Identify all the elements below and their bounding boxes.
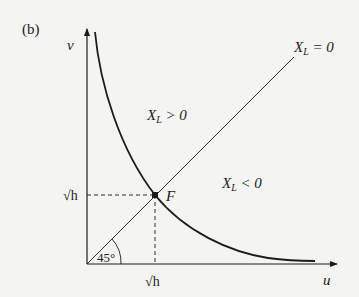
panel-label: (b) — [22, 21, 40, 38]
region-upper-rest: > 0 — [162, 107, 188, 123]
region-lower-rest: < 0 — [237, 175, 263, 191]
xl-zero-line — [87, 57, 294, 264]
v-axis-label: v — [67, 37, 74, 53]
x-tick-sqrt-h: √h — [145, 274, 160, 289]
y-tick-sqrt-h: √h — [63, 188, 78, 203]
point-f-marker — [152, 192, 158, 198]
region-xl-negative-label: XL < 0 — [221, 175, 262, 193]
xl-zero-rest: = 0 — [309, 39, 335, 55]
region-xl-positive-label: XL > 0 — [146, 107, 187, 125]
point-f-label: F — [165, 188, 176, 204]
angle-label: 45° — [97, 250, 115, 265]
diagram-canvas: (b) v u F √h √h 45° XL = 0 XL > 0 XL < 0 — [0, 0, 359, 297]
xl-zero-label: XL = 0 — [293, 39, 334, 57]
u-axis-label: u — [323, 272, 331, 288]
